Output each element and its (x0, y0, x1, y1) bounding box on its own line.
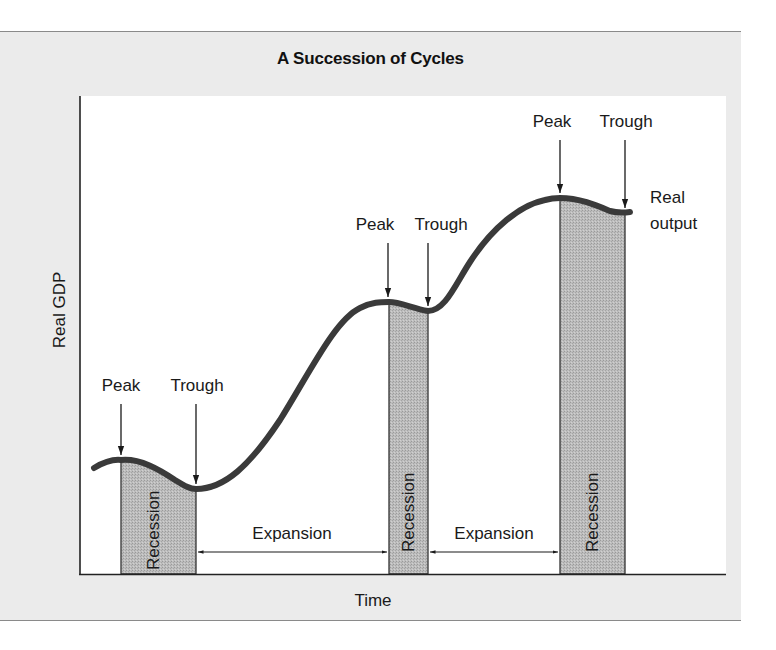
recession-label-1: Recession (144, 491, 163, 570)
business-cycle-chart: Peak Trough Peak Trough Peak Trough Real… (0, 0, 776, 650)
expansion-label-1: Expansion (252, 524, 331, 543)
recession-label-3: Recession (583, 473, 602, 552)
peak-label-2: Peak (356, 215, 395, 234)
expansion-label-2: Expansion (454, 524, 533, 543)
peak-label-1: Peak (102, 376, 141, 395)
curve-label-line2: output (650, 214, 698, 233)
trough-label-1: Trough (170, 376, 223, 395)
y-axis-label: Real GDP (50, 272, 69, 349)
recession-label-2: Recession (399, 473, 418, 552)
peak-label-3: Peak (533, 112, 572, 131)
x-axis-label: Time (354, 591, 391, 610)
trough-label-3: Trough (599, 112, 652, 131)
trough-label-2: Trough (414, 215, 467, 234)
real-output-curve (94, 198, 630, 489)
curve-label-line1: Real (650, 188, 685, 207)
